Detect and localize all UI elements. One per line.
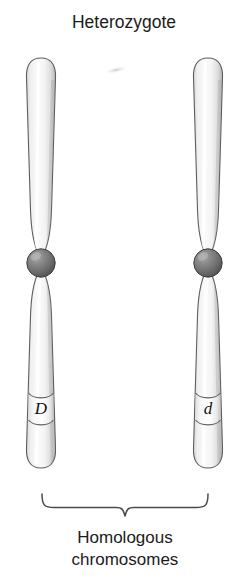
allele-label-left: D <box>34 399 48 418</box>
figure-title: Heterozygote <box>72 12 176 32</box>
chromosome-left: D <box>26 58 55 468</box>
caption-line-1: Homologous <box>77 528 172 547</box>
caption-line-2: chromosomes <box>72 550 179 569</box>
allele-band-right: d <box>196 393 221 425</box>
allele-label-right: d <box>204 399 213 418</box>
heterozygote-chromosome-figure: Heterozygote <box>0 0 246 586</box>
centromere-right <box>194 249 222 277</box>
allele-band-left: D <box>29 393 54 425</box>
centromere-left <box>27 249 55 277</box>
chromosome-right: d <box>193 58 222 468</box>
figure-canvas: Heterozygote <box>0 0 246 586</box>
